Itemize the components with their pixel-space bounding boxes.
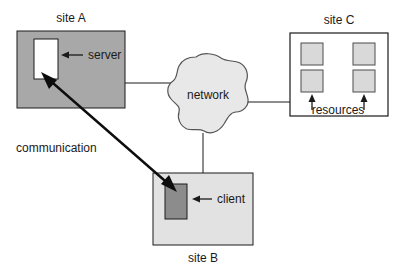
network-label: network	[187, 88, 230, 102]
site-a-group[interactable]: site A server	[17, 11, 125, 108]
network-diagram: site A server network site C	[0, 0, 402, 271]
site-c-label: site C	[324, 13, 355, 27]
communication-label: communication	[16, 141, 97, 155]
resource-box-bottom-right[interactable]	[353, 70, 375, 92]
resource-box-top-right[interactable]	[353, 43, 375, 65]
network-group[interactable]: network	[168, 54, 248, 133]
resource-box-bottom-left[interactable]	[301, 70, 323, 92]
client-label: client	[217, 192, 246, 206]
server-box[interactable]	[34, 39, 58, 79]
site-a-label: site A	[56, 11, 85, 25]
server-label: server	[88, 48, 121, 62]
site-c-group[interactable]: site C resources	[290, 13, 388, 117]
resources-label: resources	[312, 103, 365, 117]
site-a-box[interactable]	[17, 31, 125, 108]
resource-box-top-left[interactable]	[301, 43, 323, 65]
client-box[interactable]	[165, 184, 187, 219]
site-b-label: site B	[188, 251, 218, 265]
diagram-canvas: site A server network site C	[0, 0, 402, 271]
